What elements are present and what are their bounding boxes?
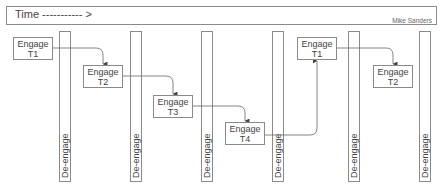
engage-t2-box-second: Engage T2 [373, 65, 413, 88]
thread-label: T2 [84, 77, 122, 87]
thread-label: T2 [374, 77, 412, 87]
engage-label: Engage [226, 124, 264, 134]
arrow-t3-to-t4 [193, 106, 245, 121]
engage-label: Engage [154, 97, 192, 107]
arrow-t1-to-t2-second [337, 48, 393, 64]
engage-t2-box: Engage T2 [83, 65, 123, 88]
engage-t1-box: Engage T1 [13, 37, 53, 60]
thread-label: T3 [154, 107, 192, 117]
thread-label: T1 [298, 49, 336, 59]
engage-t3-box: Engage T3 [153, 95, 193, 118]
arrow-t2-to-t3 [123, 76, 173, 94]
thread-label: T4 [226, 134, 264, 144]
engage-t1-box-second: Engage T1 [297, 37, 337, 60]
engage-label: Engage [14, 39, 52, 49]
arrow-t1-to-t2 [53, 48, 103, 64]
arrow-t4-to-t1 [265, 61, 317, 135]
thread-label: T1 [14, 49, 52, 59]
connector-arrows [0, 0, 442, 195]
engage-label: Engage [84, 67, 122, 77]
engage-label: Engage [374, 67, 412, 77]
engage-t4-box: Engage T4 [225, 122, 265, 145]
engage-label: Engage [298, 39, 336, 49]
